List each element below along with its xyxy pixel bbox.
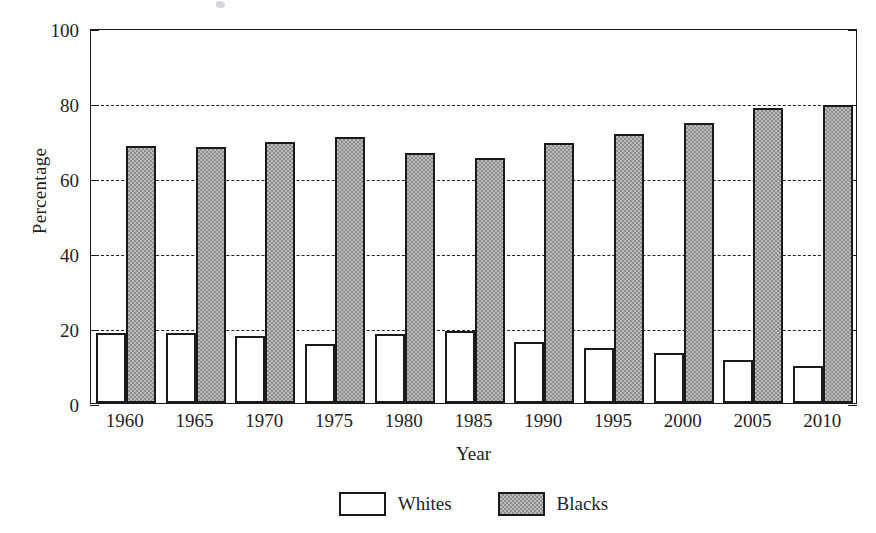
x-tick-label-1985: 1985 — [455, 410, 493, 432]
scan-artifact — [216, 1, 225, 8]
bar-group-2000 — [654, 123, 714, 404]
bar-whites-2000 — [654, 353, 684, 403]
bar-blacks-1965 — [196, 147, 226, 404]
legend-item-whites: Whites — [339, 492, 452, 516]
legend: WhitesBlacks — [90, 487, 857, 521]
bar-blacks-1995 — [614, 134, 644, 403]
bar-group-1995 — [584, 134, 644, 403]
plot-area: 020406080100 — [90, 29, 857, 404]
legend-swatch-whites — [339, 492, 386, 516]
y-tick-label-20: 20 — [60, 321, 79, 340]
x-axis-tick-labels: 1960196519701975198019851990199520002005… — [90, 410, 857, 438]
bar-whites-1985 — [445, 331, 475, 403]
x-tick-label-1980: 1980 — [385, 410, 423, 432]
bar-blacks-1985 — [475, 158, 505, 403]
y-tick-0-left — [90, 405, 99, 406]
y-tick-label-80: 80 — [60, 96, 79, 115]
y-tick-label-60: 60 — [60, 171, 79, 190]
y-axis-title: Percentage — [29, 91, 51, 291]
bar-whites-1965 — [166, 333, 196, 403]
x-tick-label-1990: 1990 — [524, 410, 562, 432]
bar-group-2010 — [793, 105, 853, 403]
bar-blacks-1990 — [544, 143, 574, 403]
bar-blacks-1980 — [405, 153, 435, 404]
bar-whites-2005 — [723, 360, 753, 403]
bar-blacks-2010 — [823, 105, 853, 403]
bar-group-1990 — [514, 143, 574, 403]
bar-blacks-1960 — [126, 146, 156, 403]
y-tick-label-0: 0 — [70, 396, 80, 415]
bar-blacks-2000 — [684, 123, 714, 404]
bar-whites-1990 — [514, 342, 544, 403]
x-tick-label-1965: 1965 — [176, 410, 214, 432]
bar-whites-1960 — [96, 333, 126, 403]
bar-whites-1975 — [305, 344, 335, 403]
bars-layer — [91, 30, 856, 403]
bar-group-1980 — [375, 153, 435, 404]
y-tick-0-right — [848, 405, 857, 406]
bar-whites-1970 — [235, 336, 265, 404]
x-axis-title: Year — [90, 443, 857, 465]
legend-label-whites: Whites — [398, 493, 452, 515]
y-tick-label-100: 100 — [51, 21, 80, 40]
legend-swatch-blacks — [498, 492, 545, 516]
bar-whites-1980 — [375, 334, 405, 403]
x-tick-label-1995: 1995 — [594, 410, 632, 432]
bar-blacks-2005 — [753, 108, 783, 403]
bar-group-1965 — [166, 147, 226, 404]
x-tick-label-1960: 1960 — [106, 410, 144, 432]
bar-group-1975 — [305, 137, 365, 403]
bar-blacks-1975 — [335, 137, 365, 403]
x-tick-label-2010: 2010 — [803, 410, 841, 432]
legend-label-blacks: Blacks — [557, 493, 609, 515]
legend-item-blacks: Blacks — [498, 492, 609, 516]
bar-blacks-1970 — [265, 142, 295, 403]
bar-whites-2010 — [793, 366, 823, 404]
bar-group-1985 — [445, 158, 505, 403]
bar-group-2005 — [723, 108, 783, 403]
bar-group-1970 — [235, 142, 295, 403]
bar-whites-1995 — [584, 348, 614, 403]
bar-group-1960 — [96, 146, 156, 403]
x-tick-label-2000: 2000 — [664, 410, 702, 432]
x-tick-label-1970: 1970 — [245, 410, 283, 432]
bar-chart-figure: Percentage 020406080100 1960196519701975… — [0, 0, 876, 533]
y-tick-label-40: 40 — [60, 246, 79, 265]
x-tick-label-1975: 1975 — [315, 410, 353, 432]
x-tick-label-2005: 2005 — [733, 410, 771, 432]
